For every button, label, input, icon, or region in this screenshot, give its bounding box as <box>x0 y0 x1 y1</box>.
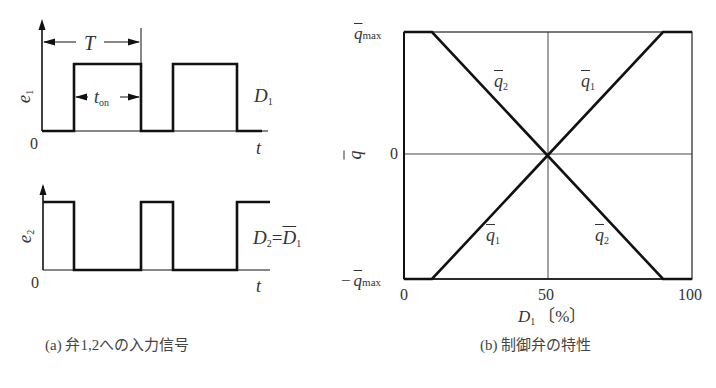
q1-lower-subscript: 1 <box>495 235 500 246</box>
neg-qmax-symbol: q <box>354 271 363 290</box>
e1-subscript: 1 <box>24 90 35 95</box>
curve-label-q2-lower: q2 <box>595 226 609 246</box>
x-tick-100: 100 <box>678 287 702 303</box>
q1-upper-subscript: 1 <box>590 81 595 92</box>
ton-label: ton <box>94 88 109 108</box>
q2-upper-subscript: 2 <box>503 81 508 92</box>
e2-symbol: e <box>14 235 35 243</box>
t-axis-label-top: t <box>256 139 261 157</box>
y-tick-neg-qmax: −qmax <box>341 272 381 289</box>
e1-signal-plot <box>39 19 269 131</box>
t-axis-label-bottom: t <box>256 277 261 295</box>
period-label: T <box>84 33 95 53</box>
minus-sign: − <box>341 271 351 290</box>
y-tick-zero: 0 <box>390 146 398 162</box>
d1-symbol: D <box>254 85 268 106</box>
d2-equation-label: D2=D1 <box>253 228 301 249</box>
q1-upper-symbol: q <box>581 71 590 91</box>
d1-subscript: 1 <box>268 96 273 107</box>
q-bar-symbol: q <box>345 151 365 160</box>
e2-axis-label: e2 <box>15 230 36 243</box>
y-tick-qmax: qmax <box>354 25 381 42</box>
e1-waveform <box>42 64 262 131</box>
q2-lower-symbol: q <box>595 225 604 245</box>
ton-arrow-right-icon <box>128 94 140 101</box>
neg-qmax-subscript: max <box>362 276 381 288</box>
percent-unit: 〔%〕 <box>538 307 586 326</box>
equals-sign: = <box>272 227 283 248</box>
ton-subscript: on <box>99 97 109 108</box>
q2-lower-subscript: 2 <box>604 235 609 246</box>
e2-y-axis-arrow-icon <box>40 184 47 195</box>
curve-label-q1-upper: q1 <box>581 72 595 92</box>
figure-canvas <box>0 0 716 388</box>
x-tick-50: 50 <box>538 287 554 303</box>
valve-characteristic-chart <box>404 32 692 279</box>
e1-symbol: e <box>13 95 34 103</box>
e1-axis-label: e1 <box>14 90 35 103</box>
d1-axis-subscript: 1 <box>530 316 535 327</box>
caption-a: (a) 弁1,2への入力信号 <box>45 338 189 353</box>
q2-upper-symbol: q <box>494 71 503 91</box>
e2-waveform <box>43 202 270 270</box>
d1-bar-subscript: 1 <box>296 238 301 249</box>
qmax-subscript: max <box>363 29 382 41</box>
period-arrow-left-icon <box>43 39 55 46</box>
origin-label-top: 0 <box>30 136 38 152</box>
e2-signal-plot <box>40 184 271 270</box>
d1-label: D1 <box>254 86 273 107</box>
d1-axis-symbol: D <box>518 307 530 326</box>
e1-y-axis-arrow-icon <box>39 19 46 30</box>
e2-subscript: 2 <box>25 230 36 235</box>
d2-symbol: D <box>253 227 267 248</box>
origin-label-bottom: 0 <box>31 275 39 291</box>
x-tick-0: 0 <box>400 287 408 303</box>
qmax-symbol: q <box>354 24 363 43</box>
d1-bar-symbol: D <box>282 227 296 248</box>
ton-arrow-left-icon <box>75 94 87 101</box>
curve-label-q1-lower: q1 <box>486 226 500 246</box>
x-axis-label: D1〔%〕 <box>518 308 586 327</box>
caption-b: (b) 制御弁の特性 <box>480 338 591 353</box>
period-arrow-right-icon <box>128 39 140 46</box>
q1-lower-symbol: q <box>486 225 495 245</box>
curve-label-q2-upper: q2 <box>494 72 508 92</box>
y-axis-label: q <box>346 151 364 160</box>
